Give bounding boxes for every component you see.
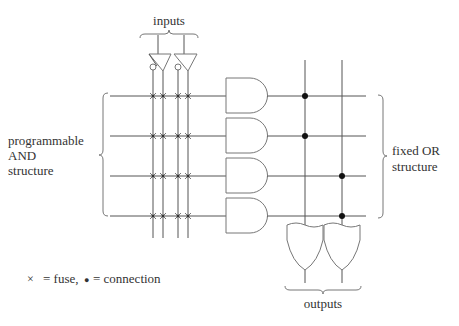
outputs-brace bbox=[285, 286, 361, 294]
legend-connection-text: = connection bbox=[93, 271, 161, 286]
and-gate-4 bbox=[226, 198, 268, 233]
or-array bbox=[267, 60, 366, 226]
or-label-line-2: structure bbox=[392, 159, 438, 174]
connection-dot bbox=[339, 173, 345, 179]
and-gate-2 bbox=[226, 118, 268, 153]
and-gate-1 bbox=[226, 78, 268, 113]
input-buffer-a bbox=[149, 54, 171, 71]
pal-diagram: inputs programmable AND structure fixed … bbox=[0, 0, 459, 326]
outputs-label: outputs bbox=[304, 296, 342, 311]
legend-fuse-symbol: × bbox=[27, 272, 34, 286]
and-label-line-3: structure bbox=[8, 163, 54, 178]
connection-dot bbox=[302, 133, 308, 139]
or-label-line-1: fixed OR bbox=[392, 143, 440, 158]
and-gate-3 bbox=[226, 158, 268, 193]
input-buffer-b bbox=[174, 54, 197, 71]
inputs-brace bbox=[140, 30, 198, 38]
connection-dot bbox=[339, 213, 345, 219]
and-label-line-2: AND bbox=[8, 148, 36, 163]
or-gate-2 bbox=[324, 223, 360, 283]
or-structure-brace bbox=[378, 95, 387, 218]
and-label-line-1: programmable bbox=[8, 133, 84, 148]
inverter-bubble bbox=[150, 64, 156, 70]
and-gates bbox=[226, 78, 268, 233]
inverter-bubble bbox=[175, 64, 181, 70]
connection-dot bbox=[302, 93, 308, 99]
legend-fuse-text: = fuse, bbox=[43, 271, 79, 286]
or-gate-1 bbox=[287, 223, 323, 283]
legend-connection-symbol: ● bbox=[84, 275, 89, 285]
and-structure-brace bbox=[99, 93, 108, 216]
inputs-label: inputs bbox=[153, 13, 185, 28]
and-array bbox=[110, 70, 226, 238]
